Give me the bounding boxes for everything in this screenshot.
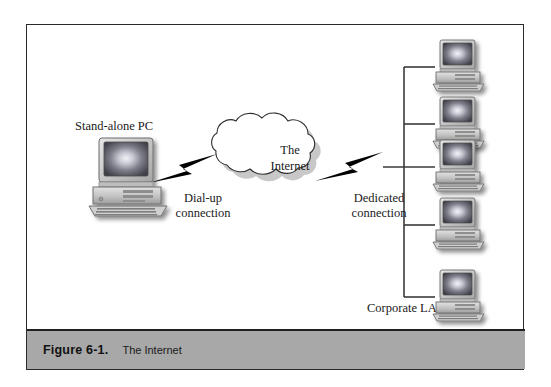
lan-pc-icon-3 [431, 139, 487, 193]
standalone-pc-icon [85, 137, 171, 219]
internet-cloud-label: The Internet [247, 143, 333, 174]
diagram-canvas: Stand-alone PC Corporate LAN Dial-up con… [27, 25, 525, 331]
lan-pc-icon-5 [431, 269, 487, 323]
dedicated-connection-label: Dedicated connection [327, 191, 431, 222]
lan-pc-icon-1 [431, 39, 487, 93]
dedicated-label-line1: Dedicated [327, 191, 431, 206]
figure-caption-bar: Figure 6-1. The Internet [27, 329, 525, 369]
cloud-label-line1: The [247, 143, 333, 159]
standalone-pc-label: Stand-alone PC [75, 119, 153, 134]
cloud-label-line2: Internet [247, 159, 333, 175]
figure-frame: Stand-alone PC Corporate LAN Dial-up con… [26, 24, 524, 370]
figure-caption-number: Figure 6-1. [43, 343, 108, 357]
lan-pc-icon-4 [431, 197, 487, 251]
dedicated-label-line2: connection [327, 206, 431, 221]
figure-caption-title: The Internet [122, 344, 181, 356]
